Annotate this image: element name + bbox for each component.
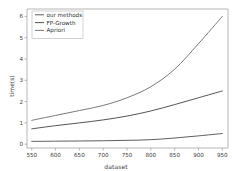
legend-label: Apriori	[47, 27, 66, 34]
x-tick-label: 900	[193, 152, 204, 158]
line-chart-canvas: 550600650700750800850900950 0123456 our …	[0, 0, 232, 171]
y-tick-label: 6	[19, 13, 23, 19]
x-tick-label: 600	[50, 152, 61, 158]
y-axis-label: time(s)	[8, 75, 15, 96]
x-axis-ticks: 550600650700750800850900950	[26, 148, 228, 158]
x-tick-label: 750	[122, 152, 133, 158]
legend-label: FP-Growth	[47, 20, 76, 26]
y-tick-label: 5	[19, 35, 23, 41]
y-tick-label: 4	[19, 56, 23, 62]
x-tick-label: 700	[98, 152, 109, 158]
x-tick-label: 950	[217, 152, 228, 158]
x-axis-label: dataset	[0, 163, 232, 170]
y-tick-label: 1	[19, 120, 23, 126]
legend-label: our methods	[47, 12, 83, 18]
x-tick-label: 550	[26, 152, 37, 158]
y-tick-label: 2	[19, 99, 23, 105]
x-tick-label: 800	[145, 152, 156, 158]
chart-legend: our methodsFP-GrowthApriori	[32, 11, 83, 38]
y-tick-label: 3	[19, 77, 23, 83]
y-axis-ticks: 0123456	[19, 13, 27, 147]
series-line-fp-growth	[32, 91, 223, 129]
series-line-our-methods	[32, 134, 223, 142]
x-tick-label: 850	[169, 152, 180, 158]
y-tick-label: 0	[19, 141, 23, 147]
x-tick-label: 650	[74, 152, 85, 158]
chart-figure: 550600650700750800850900950 0123456 our …	[0, 0, 232, 171]
